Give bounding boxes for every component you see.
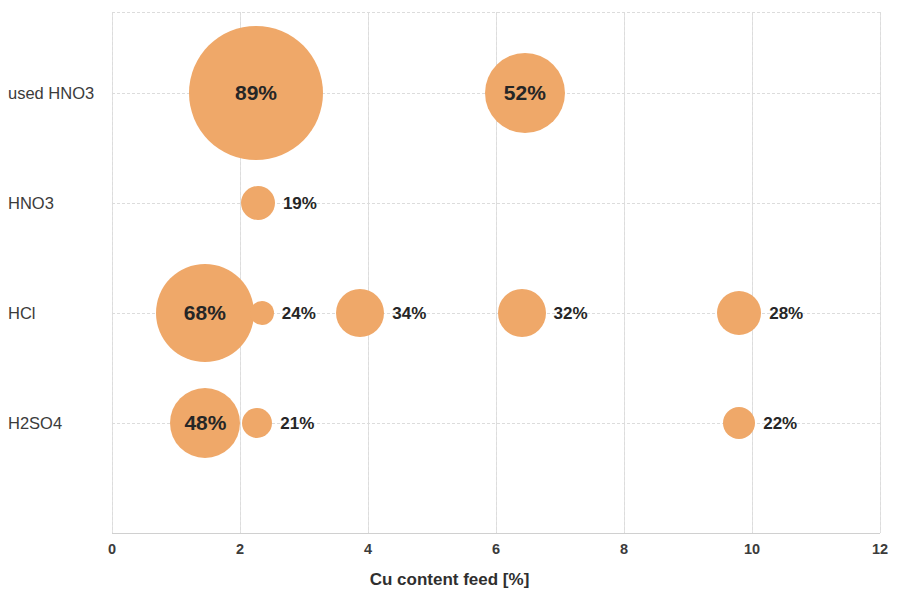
bubble[interactable] — [723, 407, 755, 439]
bubble-value-label: 32% — [554, 305, 588, 322]
bubble[interactable] — [498, 289, 546, 337]
bubble-value-label: 21% — [280, 415, 314, 432]
y-axis-label-used-hno3: used HNO3 — [8, 85, 108, 102]
bubble-value-label: 28% — [769, 305, 803, 322]
bubble-value-label: 22% — [763, 415, 797, 432]
bubble[interactable] — [242, 408, 272, 438]
bubble[interactable] — [250, 301, 274, 325]
x-axis-tick-2: 2 — [210, 541, 270, 557]
gridline-vertical — [880, 12, 881, 533]
bubble-value-label: 52% — [485, 82, 565, 103]
gridline-top — [112, 12, 880, 13]
bubble-value-label: 34% — [392, 305, 426, 322]
y-axis-label-hno3: HNO3 — [8, 195, 108, 212]
bubble-value-label: 48% — [170, 412, 240, 433]
gridline-vertical — [112, 12, 113, 533]
x-axis-tick-12: 12 — [850, 541, 899, 557]
bubble-value-label: 68% — [156, 302, 254, 323]
gridline-vertical — [624, 12, 625, 533]
bubble-value-label: 19% — [283, 195, 317, 212]
bubble[interactable] — [717, 291, 761, 335]
x-axis-title: Cu content feed [%] — [0, 570, 899, 590]
x-axis-tick-6: 6 — [466, 541, 526, 557]
gridline-vertical — [368, 12, 369, 533]
y-axis-label-hcl: HCl — [8, 305, 108, 322]
bubble-value-label: 89% — [189, 82, 323, 103]
x-axis-tick-10: 10 — [722, 541, 782, 557]
gridline-vertical — [752, 12, 753, 533]
y-axis-label-h2so4: H2SO4 — [8, 415, 108, 432]
bubble[interactable] — [241, 186, 275, 220]
gridline-horizontal — [112, 203, 880, 204]
x-axis-line — [112, 533, 880, 534]
x-axis-tick-4: 4 — [338, 541, 398, 557]
bubble-chart: 89%52%19%68%24%34%32%28%48%21%22% used H… — [0, 0, 899, 597]
x-axis-tick-0: 0 — [82, 541, 142, 557]
bubble[interactable] — [336, 289, 384, 337]
x-axis-tick-8: 8 — [594, 541, 654, 557]
plot-area: 89%52%19%68%24%34%32%28%48%21%22% — [112, 12, 880, 533]
bubble-value-label: 24% — [282, 305, 316, 322]
